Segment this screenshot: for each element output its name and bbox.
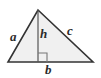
label-side-a: a [10, 30, 17, 43]
label-base-b: b [45, 63, 52, 76]
label-height-h: h [40, 27, 47, 40]
label-side-c: c [67, 24, 73, 37]
geometry-figure: a h c b [0, 0, 101, 78]
triangle-shape [8, 10, 93, 62]
